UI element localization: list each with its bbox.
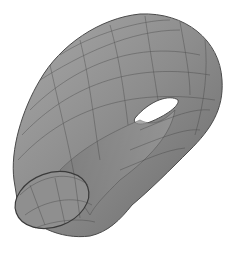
- klein-bottle-figure: [0, 0, 233, 253]
